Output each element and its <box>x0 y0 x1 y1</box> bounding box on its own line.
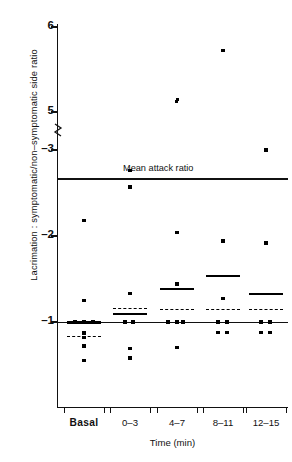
x-tick-mark <box>286 407 287 413</box>
data-point <box>225 320 228 323</box>
data-point <box>91 320 94 323</box>
data-point <box>128 169 131 172</box>
data-point <box>264 148 267 151</box>
data-point <box>175 100 178 103</box>
group-solid-mean-line <box>160 288 194 290</box>
group-solid-mean-line <box>249 293 283 295</box>
x-axis-line <box>57 407 288 408</box>
group-dashed-mean-line <box>206 309 240 310</box>
data-point <box>221 49 224 52</box>
mean-attack-ratio-line <box>57 178 288 180</box>
group-dashed-mean-line <box>113 308 147 309</box>
x-tick-mark <box>110 407 111 413</box>
mean-attack-ratio-label: Mean attack ratio <box>123 163 193 173</box>
data-point <box>216 320 219 323</box>
x-tick-mark <box>243 407 244 413</box>
x-tick-mark <box>157 407 158 413</box>
data-point <box>259 331 262 334</box>
data-point <box>216 331 219 334</box>
data-point <box>82 320 85 323</box>
data-point <box>82 331 85 334</box>
data-point <box>264 241 267 244</box>
group-solid-mean-line <box>206 275 240 277</box>
scatter-plot-figure: Lacrimation : symptomatic/non–symptomati… <box>0 0 292 462</box>
group-solid-mean-line <box>113 313 147 315</box>
data-point <box>221 239 224 242</box>
data-point <box>175 346 178 349</box>
axis-break-icon <box>52 123 64 137</box>
y-tick-label: 6 <box>14 19 54 31</box>
data-point <box>131 320 134 323</box>
data-point <box>166 320 169 323</box>
data-point <box>82 344 85 347</box>
data-point <box>82 219 85 222</box>
x-tick-label: 12–15 <box>226 417 292 428</box>
data-point <box>259 320 262 323</box>
x-axis-label: Time (min) <box>57 437 288 448</box>
data-point <box>268 320 271 323</box>
group-dashed-mean-line <box>160 309 194 310</box>
y-tick-label: –1 <box>14 314 54 326</box>
data-point <box>181 320 184 323</box>
x-tick-mark <box>104 407 105 413</box>
data-point <box>82 299 85 302</box>
y-tick-label: –2 <box>14 228 54 240</box>
y-tick-label: 5 <box>14 104 54 116</box>
data-point <box>128 185 131 188</box>
x-tick-mark <box>246 407 247 413</box>
data-point <box>175 282 178 285</box>
x-tick-mark <box>203 407 204 413</box>
x-tick-mark <box>150 407 151 413</box>
data-point <box>128 292 131 295</box>
x-tick-mark <box>64 407 65 413</box>
data-point <box>73 320 76 323</box>
data-point <box>82 336 85 339</box>
data-point <box>221 297 224 300</box>
data-point <box>175 320 178 323</box>
data-point <box>268 331 271 334</box>
data-point <box>128 347 131 350</box>
data-point <box>225 331 228 334</box>
y-axis-line <box>57 24 58 408</box>
y-tick-label: –3 <box>14 142 54 154</box>
data-point <box>82 359 85 362</box>
data-point <box>128 356 131 359</box>
x-tick-mark <box>197 407 198 413</box>
data-point <box>175 231 178 234</box>
group-dashed-mean-line <box>249 309 283 310</box>
data-point <box>123 320 126 323</box>
y-axis-label: Lacrimation : symptomatic/non–symptomati… <box>29 35 39 295</box>
